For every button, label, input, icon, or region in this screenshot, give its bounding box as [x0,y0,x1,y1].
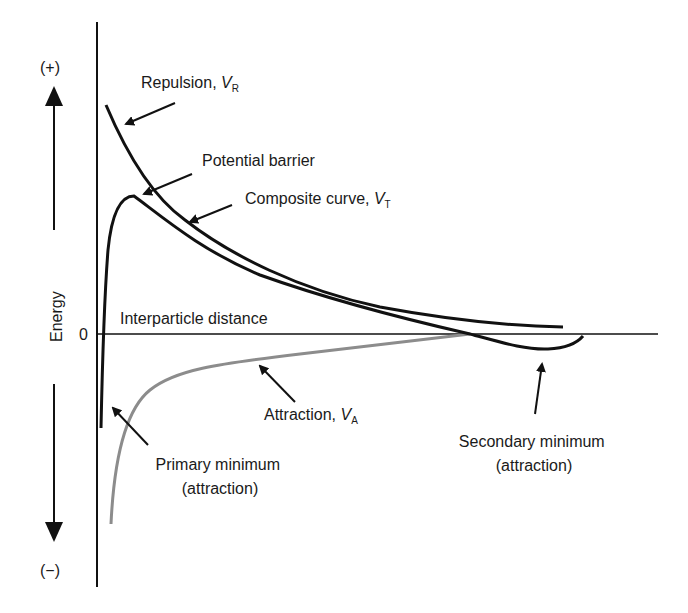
composite-arrow-icon [190,205,232,222]
negative-energy-arrow-icon [45,384,63,542]
repulsion-arrow-icon [126,103,175,124]
repulsion-label: Repulsion, VR [141,74,239,94]
repulsion-curve [106,105,563,327]
primary-minimum-arrow-icon [113,408,148,445]
primary-minimum-label: Primary minimum (attraction) [156,456,285,497]
positive-energy-arrow-icon [45,86,63,230]
secondary-minimum-arrow-icon [535,364,542,414]
attraction-curve [111,334,470,524]
attraction-arrow-icon [260,366,295,402]
zero-label: 0 [79,326,88,343]
potential-barrier-label: Potential barrier [202,152,316,169]
attraction-label: Attraction, VA [264,406,358,426]
dlvo-energy-diagram: (+) (−) Energy 0 Interparticle distance … [0,0,688,613]
y-positive-label: (+) [40,59,60,76]
secondary-minimum-label: Secondary minimum (attraction) [459,433,609,474]
x-axis-label: Interparticle distance [120,310,268,327]
composite-curve-label: Composite curve, VT [245,190,391,210]
y-axis-label: Energy [48,291,65,342]
y-negative-label: (−) [40,562,60,579]
